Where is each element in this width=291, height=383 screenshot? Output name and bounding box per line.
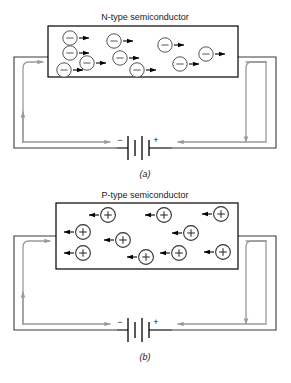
panel-a-battery-negative-label: − <box>117 135 122 145</box>
semiconductor-conduction-figure: N-type semiconductor <box>0 0 291 383</box>
panel-b-battery-negative-label: − <box>117 317 122 327</box>
panel-b-battery-positive-label: + <box>153 317 158 327</box>
panel-a-battery-positive-label: + <box>153 135 158 145</box>
panel-b-caption: (b) <box>140 352 151 362</box>
panel-a-caption: (a) <box>140 169 151 179</box>
figure-canvas: N-type semiconductor <box>0 0 291 383</box>
panel-a-title: N-type semiconductor <box>101 12 189 22</box>
panel-b-title: P-type semiconductor <box>101 190 188 200</box>
